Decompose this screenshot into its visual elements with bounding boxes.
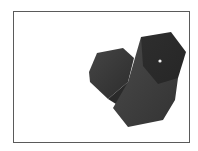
highlight-spot	[158, 59, 161, 62]
rendered-scene	[0, 0, 198, 151]
